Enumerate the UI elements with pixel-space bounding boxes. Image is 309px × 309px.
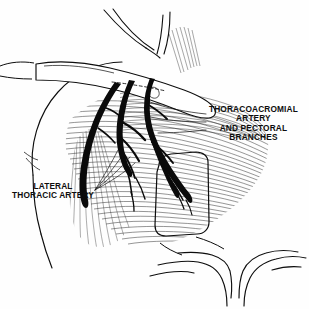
- acromion-contour: [0, 62, 34, 79]
- neck-contour: [104, 9, 170, 58]
- thoracoacromial-artery-label: THORACOACROMIAL ARTERY AND PECTORAL BRAN…: [209, 105, 298, 143]
- lateral-thoracic-label-line-2: THORACIC ARTERY: [8, 191, 98, 200]
- anatomical-figure: THORACOACROMIAL ARTERY AND PECTORAL BRAN…: [0, 0, 309, 309]
- thoracoacromial-label-line-4: BRANCHES: [209, 133, 298, 142]
- illustration-canvas: [0, 0, 309, 309]
- costal-margin: [150, 251, 306, 306]
- sternal-hatching: [169, 27, 200, 73]
- lateral-thoracic-artery-label: LATERAL THORACIC ARTERY: [8, 182, 98, 201]
